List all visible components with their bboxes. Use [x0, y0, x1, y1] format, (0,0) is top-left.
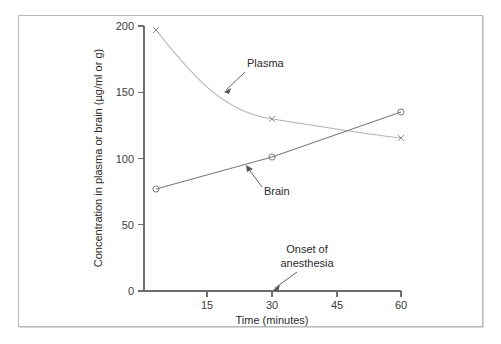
annotation-brain-arrow-head — [246, 165, 253, 172]
plasma-series-curve — [156, 30, 401, 138]
annotation-brain-arrow-line — [248, 168, 262, 187]
annotation-plasma-label: Plasma — [247, 57, 285, 69]
y-tick-label-100: 100 — [116, 153, 134, 165]
annotation-onset-of-anesthesia: Onset of anesthesia — [273, 243, 334, 292]
annotation-onset-label-line2: anesthesia — [280, 257, 334, 269]
annotation-plasma: Plasma — [224, 57, 285, 94]
y-axis-ticks — [138, 26, 144, 291]
y-axis-title: Concentration in plasma or brain (µg/ml … — [92, 49, 104, 268]
brain-series-line — [156, 112, 401, 189]
x-tick-label-30: 30 — [266, 299, 278, 311]
annotation-brain-label: Brain — [264, 185, 290, 197]
figure-root: 200 150 100 50 0 15 30 45 60 Time (minut… — [0, 0, 501, 344]
annotation-brain: Brain — [246, 165, 290, 197]
annotation-plasma-arrow-line — [226, 72, 245, 90]
annotation-onset-arrow-line — [275, 272, 297, 288]
y-tick-label-0: 0 — [128, 285, 134, 297]
y-tick-label-150: 150 — [116, 86, 134, 98]
annotation-onset-label-line1: Onset of — [286, 243, 329, 255]
x-axis-title: Time (minutes) — [236, 314, 309, 326]
x-tick-label-45: 45 — [331, 299, 343, 311]
y-tick-label-200: 200 — [116, 20, 134, 32]
x-axis-ticks — [207, 291, 401, 297]
y-tick-label-50: 50 — [122, 219, 134, 231]
y-axis-tick-labels: 200 150 100 50 0 — [116, 20, 134, 297]
plasma-marker-point-1 — [153, 27, 159, 33]
x-tick-label-60: 60 — [395, 299, 407, 311]
x-axis-tick-labels: 15 30 45 60 — [201, 299, 407, 311]
concentration-line-chart: 200 150 100 50 0 15 30 45 60 Time (minut… — [19, 16, 482, 326]
figure-frame-border: 200 150 100 50 0 15 30 45 60 Time (minut… — [18, 15, 483, 327]
x-tick-label-15: 15 — [201, 299, 213, 311]
